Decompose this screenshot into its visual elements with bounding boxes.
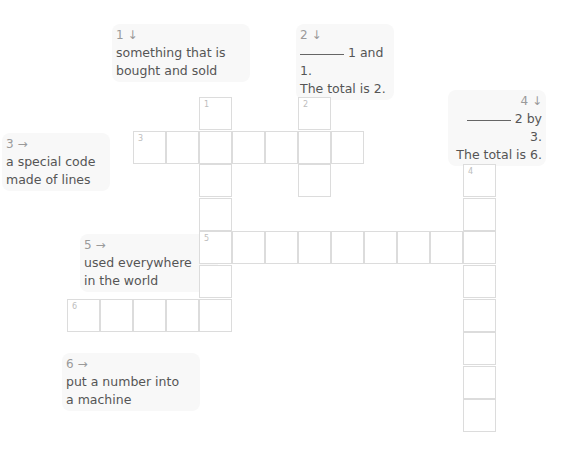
clue-number-text: 1 <box>116 28 127 42</box>
cell-number: 2 <box>303 100 308 109</box>
clue-number: 5 → <box>84 236 214 254</box>
grid-cell[interactable]: 1 <box>199 97 232 130</box>
clue-3-across: 3 →a special codemade of lines <box>2 133 110 191</box>
clue-5-across: 5 →used everywherein the world <box>80 234 218 292</box>
grid-cell[interactable] <box>166 299 199 332</box>
clue-text-line: something that is <box>116 44 246 62</box>
clue-number-text: 5 <box>84 238 95 252</box>
clue-text-line: The total is 2. <box>300 80 390 98</box>
right-arrow-icon: → <box>77 357 87 371</box>
grid-cell[interactable]: 2 <box>298 97 331 130</box>
grid-cell[interactable] <box>265 131 298 164</box>
clue-text-line: a special code <box>6 153 106 171</box>
grid-cell[interactable] <box>430 231 463 264</box>
grid-cell[interactable] <box>397 231 430 264</box>
clue-6-across: 6 →put a number intoa machine <box>62 353 200 411</box>
grid-cell[interactable]: 5 <box>199 231 232 264</box>
grid-cell[interactable] <box>199 265 232 298</box>
grid-cell[interactable] <box>331 231 364 264</box>
clue-2-down: 2 ↓1 and 1.The total is 2. <box>296 24 394 100</box>
clue-text-line: 2 by 3. <box>452 110 542 146</box>
down-arrow-icon: ↓ <box>532 94 542 108</box>
clue-text-line: The total is 6. <box>452 146 542 164</box>
cell-number: 1 <box>204 100 209 109</box>
cell-number: 3 <box>138 134 143 143</box>
grid-cell[interactable] <box>166 131 199 164</box>
clue-number-text: 6 <box>66 357 77 371</box>
grid-cell[interactable] <box>199 198 232 231</box>
grid-cell[interactable] <box>298 131 331 164</box>
grid-cell[interactable] <box>298 231 331 264</box>
clue-number-text: 2 <box>300 28 311 42</box>
clue-number-text: 4 <box>520 94 531 108</box>
grid-cell[interactable] <box>331 131 364 164</box>
clue-1-down: 1 ↓something that isbought and sold <box>112 24 250 82</box>
grid-cell[interactable] <box>199 131 232 164</box>
clue-text-line: put a number into <box>66 373 196 391</box>
cell-number: 5 <box>204 234 209 243</box>
clue-text-line: 1 and 1. <box>300 44 390 80</box>
down-arrow-icon: ↓ <box>311 28 321 42</box>
clue-number: 4 ↓ <box>452 92 542 110</box>
down-arrow-icon: ↓ <box>127 28 137 42</box>
grid-cell[interactable] <box>232 231 265 264</box>
answer-blank <box>467 119 511 121</box>
grid-cell[interactable] <box>232 131 265 164</box>
grid-cell[interactable]: 4 <box>463 164 496 197</box>
grid-cell[interactable]: 6 <box>67 299 100 332</box>
clue-text-line: in the world <box>84 272 214 290</box>
clue-number: 3 → <box>6 135 106 153</box>
grid-cell[interactable] <box>364 231 397 264</box>
grid-cell[interactable] <box>463 299 496 332</box>
clue-text-line: bought and sold <box>116 62 246 80</box>
clue-number-text: 3 <box>6 137 17 151</box>
grid-cell[interactable] <box>463 231 496 264</box>
clue-text-line: made of lines <box>6 171 106 189</box>
grid-cell[interactable] <box>100 299 133 332</box>
grid-cell[interactable] <box>463 332 496 365</box>
grid-cell[interactable] <box>199 299 232 332</box>
grid-cell[interactable]: 3 <box>133 131 166 164</box>
clue-text-line: used everywhere <box>84 254 214 272</box>
clue-4-down: 4 ↓2 by 3.The total is 6. <box>448 90 546 166</box>
grid-cell[interactable] <box>463 399 496 432</box>
grid-cell[interactable] <box>199 164 232 197</box>
grid-cell[interactable] <box>298 164 331 197</box>
answer-blank <box>300 53 344 55</box>
clue-number: 1 ↓ <box>116 26 246 44</box>
clue-text-line: a machine <box>66 391 196 409</box>
grid-cell[interactable] <box>463 265 496 298</box>
right-arrow-icon: → <box>17 137 27 151</box>
cell-number: 4 <box>468 167 473 176</box>
grid-cell[interactable] <box>463 198 496 231</box>
grid-cell[interactable] <box>265 231 298 264</box>
grid-cell[interactable] <box>133 299 166 332</box>
grid-cell[interactable] <box>463 366 496 399</box>
clue-number: 2 ↓ <box>300 26 390 44</box>
clue-number: 6 → <box>66 355 196 373</box>
cell-number: 6 <box>72 302 77 311</box>
right-arrow-icon: → <box>95 238 105 252</box>
